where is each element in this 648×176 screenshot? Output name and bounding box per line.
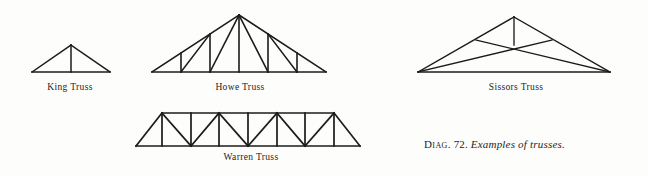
left-diagonal-1 bbox=[181, 34, 210, 72]
left-scissor-member bbox=[418, 40, 552, 72]
right-top-chord bbox=[514, 17, 610, 72]
sissors-truss-drawing bbox=[412, 12, 616, 78]
figure-caption: Diag. 72. Examples of trusses. bbox=[424, 138, 565, 150]
right-scissor-member bbox=[476, 40, 610, 72]
howe-truss-drawing bbox=[148, 10, 330, 78]
figure-howe-truss bbox=[148, 10, 330, 78]
diagonal-4 bbox=[248, 113, 277, 146]
left-top-chord bbox=[152, 15, 239, 72]
label-warren-truss: Warren Truss bbox=[196, 152, 306, 162]
label-howe-truss: Howe Truss bbox=[190, 82, 290, 92]
figure-sissors-truss bbox=[412, 12, 616, 78]
right-diagonal-1 bbox=[268, 34, 297, 72]
right-end-post bbox=[334, 113, 360, 146]
right-top-chord bbox=[239, 15, 326, 72]
caption-description: Examples of trusses. bbox=[471, 138, 565, 150]
right-rafter bbox=[71, 45, 110, 72]
label-sissors-truss: Sissors Truss bbox=[464, 82, 568, 92]
caption-diag-word: Diag. bbox=[424, 138, 451, 150]
left-rafter bbox=[32, 45, 71, 72]
diagonal-1 bbox=[162, 113, 191, 146]
diagram-page: King Truss bbox=[0, 0, 648, 176]
diagonal-2 bbox=[191, 113, 219, 146]
figure-warren-truss bbox=[132, 108, 364, 152]
left-end-post bbox=[136, 113, 162, 146]
king-truss-drawing bbox=[28, 40, 118, 78]
diagonal-3 bbox=[219, 113, 248, 146]
left-top-chord bbox=[418, 17, 514, 72]
diagonal-5 bbox=[277, 113, 305, 146]
label-king-truss: King Truss bbox=[22, 82, 118, 92]
warren-truss-drawing bbox=[132, 108, 364, 152]
diagonal-6 bbox=[305, 113, 334, 146]
caption-diag-number: 72. bbox=[454, 138, 468, 150]
figure-king-truss bbox=[28, 40, 118, 78]
